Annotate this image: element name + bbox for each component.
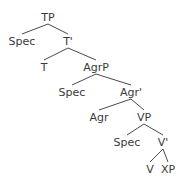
tree-node-agr: Agr bbox=[89, 112, 108, 123]
tree-node-agrbar: Agr' bbox=[120, 87, 142, 98]
tree-node-tp: TP bbox=[41, 12, 54, 23]
tree-node-vbar: V' bbox=[158, 137, 169, 148]
tree-edge bbox=[127, 124, 144, 135]
tree-edge bbox=[99, 99, 131, 110]
tree-node-v: V bbox=[146, 164, 154, 175]
tree-edge bbox=[96, 74, 131, 85]
tree-edge bbox=[68, 48, 96, 60]
tree-edge bbox=[48, 24, 68, 34]
tree-node-spec-agrp: Spec bbox=[59, 87, 86, 98]
tree-node-spec-vp: Spec bbox=[114, 137, 141, 148]
tree-edge bbox=[44, 48, 68, 60]
tree-edge bbox=[72, 74, 96, 85]
tree-node-spec-tp: Spec bbox=[9, 36, 36, 47]
tree-edge bbox=[163, 149, 168, 162]
tree-edge bbox=[22, 24, 48, 34]
syntax-tree-diagram: TPSpecT'TAgrPSpecAgr'AgrVPSpecV'VXP bbox=[0, 0, 183, 186]
tree-node-xp: XP bbox=[161, 164, 175, 175]
tree-node-agrp: AgrP bbox=[83, 62, 109, 73]
tree-edges-layer bbox=[0, 0, 183, 186]
tree-node-tbar: T' bbox=[63, 36, 73, 47]
tree-edge bbox=[131, 99, 144, 110]
tree-edge bbox=[144, 124, 163, 135]
tree-edge bbox=[150, 149, 163, 162]
tree-node-vp: VP bbox=[137, 112, 151, 123]
tree-node-t: T bbox=[41, 62, 48, 73]
